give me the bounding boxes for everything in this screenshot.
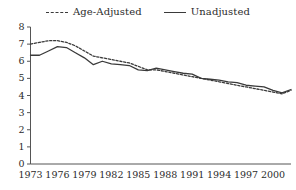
x-tick-label-1997: 1997 (234, 169, 258, 180)
y-tick-label-7: 7 (18, 38, 24, 49)
x-tick-label-1976: 1976 (45, 169, 69, 180)
x-tick-label-1991: 1991 (180, 169, 204, 180)
y-tick-label-8: 8 (18, 21, 24, 32)
series-line-unadjusted (31, 47, 292, 93)
x-tick-label-2000: 2000 (261, 169, 285, 180)
y-axis: 012345678 (18, 21, 30, 169)
y-tick-label-5: 5 (18, 72, 24, 83)
x-tick-label-1985: 1985 (126, 169, 150, 180)
x-tick-label-1973: 1973 (18, 169, 42, 180)
y-tick-label-1: 1 (18, 141, 24, 152)
x-axis: 1973197619791982198519881991199419972000 (18, 164, 291, 180)
line-chart-plot: 012345678 197319761979198219851988199119… (0, 0, 296, 190)
x-tick-label-1994: 1994 (207, 169, 231, 180)
x-tick-label-1982: 1982 (99, 169, 123, 180)
y-tick-label-0: 0 (18, 158, 24, 169)
x-tick-label-1979: 1979 (72, 169, 96, 180)
y-tick-label-4: 4 (18, 90, 24, 101)
y-tick-label-6: 6 (18, 55, 24, 66)
data-series-group (31, 41, 292, 94)
chart-container: Age-Adjusted Unadjusted 012345678 197319… (0, 0, 296, 190)
x-tick-label-1988: 1988 (153, 169, 177, 180)
y-tick-label-2: 2 (18, 124, 24, 135)
y-tick-label-3: 3 (18, 107, 24, 118)
